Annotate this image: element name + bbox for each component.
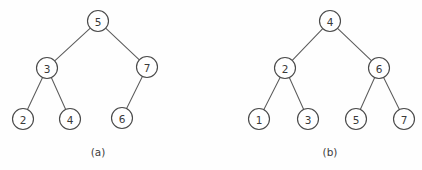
figure-canvas: 537246 4261357 (a)(b) xyxy=(0,0,422,170)
tree-edge xyxy=(289,78,303,110)
tree-node-label: 4 xyxy=(327,16,334,28)
tree-node-label: 4 xyxy=(67,114,74,126)
panel-caption-b: (b) xyxy=(323,146,338,158)
tree-node-label: 1 xyxy=(256,114,263,126)
tree-node: 5 xyxy=(346,109,367,130)
tree-edge xyxy=(292,29,322,61)
binary-tree-figure: 537246 4261357 (a)(b) xyxy=(0,0,422,170)
tree-node: 3 xyxy=(298,109,319,130)
tree-node-label: 6 xyxy=(119,113,126,125)
tree-edge xyxy=(127,76,143,108)
tree-node-label: 7 xyxy=(401,114,408,126)
tree-edge xyxy=(27,78,42,110)
tree-node: 6 xyxy=(369,58,390,79)
tree-node-label: 2 xyxy=(20,114,27,126)
tree-node: 2 xyxy=(275,58,296,79)
tree-node: 6 xyxy=(112,108,133,129)
tree-node-label: 2 xyxy=(282,63,289,75)
tree-b-nodes: 4261357 xyxy=(249,11,415,130)
tree-edge xyxy=(55,28,91,61)
tree-node-label: 5 xyxy=(353,114,360,126)
tree-edge xyxy=(360,78,374,110)
tree-node: 4 xyxy=(320,11,341,32)
tree-node: 7 xyxy=(394,109,415,130)
tree-node: 7 xyxy=(137,57,158,78)
tree-edge xyxy=(384,77,400,109)
tree-node: 5 xyxy=(88,11,109,32)
tree-node-label: 7 xyxy=(144,62,151,74)
tree-edge xyxy=(338,28,372,60)
tree-node-label: 6 xyxy=(376,63,383,75)
tree-node-label: 5 xyxy=(95,16,102,28)
tree-node: 1 xyxy=(249,109,270,130)
tree-node: 3 xyxy=(37,58,58,79)
tree-edge xyxy=(264,77,280,109)
tree-a-nodes: 537246 xyxy=(13,11,158,130)
tree-edge xyxy=(51,78,65,110)
tree-edge xyxy=(106,28,140,60)
tree-node-label: 3 xyxy=(44,63,51,75)
tree-node: 4 xyxy=(60,109,81,130)
panel-caption-a: (a) xyxy=(91,146,106,158)
figure-captions: (a)(b) xyxy=(91,146,338,158)
tree-node-label: 3 xyxy=(305,114,312,126)
tree-node: 2 xyxy=(13,109,34,130)
